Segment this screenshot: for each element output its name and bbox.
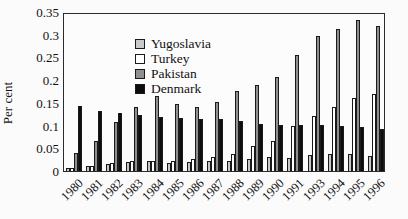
y-axis-title: Per cent bbox=[0, 68, 16, 138]
bar-denmark-1994 bbox=[340, 126, 344, 171]
bar-denmark-1980 bbox=[78, 106, 82, 171]
legend-label: Pakistan bbox=[151, 68, 197, 80]
legend-swatch-icon bbox=[135, 54, 145, 64]
bar-denmark-1981 bbox=[98, 111, 102, 171]
legend-swatch-icon bbox=[135, 84, 145, 94]
legend-swatch-icon bbox=[135, 39, 145, 49]
y-tick-label: 0 bbox=[19, 167, 59, 177]
x-tick-label-1996: 1996 bbox=[360, 176, 388, 204]
legend-label: Yugoslavia bbox=[151, 38, 211, 50]
bar-denmark-1984 bbox=[159, 117, 163, 171]
bar-denmark-1986 bbox=[199, 119, 203, 171]
bar-denmark-1985 bbox=[179, 118, 183, 171]
y-tick-label: 0.05 bbox=[19, 144, 59, 154]
bar-denmark-1993 bbox=[320, 125, 324, 171]
bar-denmark-1988 bbox=[239, 121, 243, 171]
bar-denmark-1991 bbox=[299, 125, 303, 171]
legend-label: Denmark bbox=[151, 83, 201, 95]
legend-swatch-icon bbox=[135, 69, 145, 79]
legend: YugoslaviaTurkeyPakistanDenmark bbox=[135, 38, 211, 95]
plot-area: YugoslaviaTurkeyPakistanDenmark bbox=[63, 13, 385, 172]
bar-denmark-1983 bbox=[138, 115, 142, 171]
bar-denmark-1987 bbox=[219, 119, 223, 171]
y-tick-label: 0.3 bbox=[19, 31, 59, 41]
legend-item-yugoslavia: Yugoslavia bbox=[135, 38, 211, 50]
y-tick-label: 0.1 bbox=[19, 122, 59, 132]
y-tick-label: 0.2 bbox=[19, 76, 59, 86]
bar-denmark-1990 bbox=[279, 125, 283, 171]
bar-denmark-1982 bbox=[118, 113, 122, 171]
legend-item-turkey: Turkey bbox=[135, 53, 211, 65]
bar-denmark-1989 bbox=[259, 124, 263, 171]
y-tick-label: 0.25 bbox=[19, 53, 59, 63]
legend-item-pakistan: Pakistan bbox=[135, 68, 211, 80]
bar-chart-figure: Per cent 00.050.10.150.20.250.30.35 Yugo… bbox=[0, 0, 408, 219]
legend-item-denmark: Denmark bbox=[135, 83, 211, 95]
bar-denmark-1996 bbox=[380, 129, 384, 171]
y-tick-label: 0.15 bbox=[19, 99, 59, 109]
legend-label: Turkey bbox=[151, 53, 190, 65]
bar-denmark-1995 bbox=[360, 127, 364, 171]
y-tick-label: 0.35 bbox=[19, 8, 59, 18]
